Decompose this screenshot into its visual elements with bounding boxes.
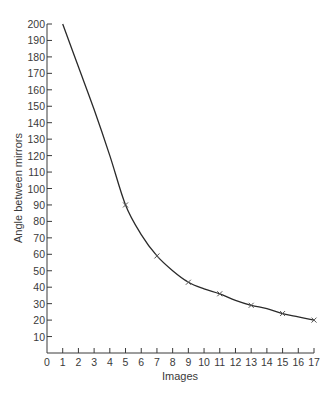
- y-tick-label: 90: [33, 199, 45, 211]
- y-tick-label: 10: [33, 331, 45, 343]
- x-tick-label: 8: [170, 356, 176, 368]
- x-tick-label: 6: [138, 356, 144, 368]
- x-tick-label: 13: [245, 356, 257, 368]
- y-tick-label: 60: [33, 248, 45, 260]
- line-chart: 1020304050607080901001101201301401501601…: [0, 0, 332, 401]
- data-curve: [63, 24, 314, 320]
- x-tick-label: 4: [107, 356, 113, 368]
- y-tick-label: 70: [33, 232, 45, 244]
- y-tick-label: 50: [33, 265, 45, 277]
- y-tick-label: 130: [27, 133, 45, 145]
- y-tick-label: 40: [33, 281, 45, 293]
- x-tick-label: 11: [214, 356, 225, 368]
- x-tick-label: 5: [123, 356, 129, 368]
- y-tick-label: 120: [27, 150, 45, 162]
- y-tick-label: 100: [27, 183, 45, 195]
- x-tick-label: 0: [44, 356, 50, 368]
- x-tick-label: 3: [91, 356, 97, 368]
- y-tick-label: 30: [33, 298, 45, 310]
- y-tick-label: 180: [27, 51, 45, 63]
- x-axis: 01234567891011121314151617: [44, 348, 320, 368]
- plot-area: [63, 24, 317, 323]
- x-tick-label: 16: [292, 356, 304, 368]
- y-axis-title: Angle between mirrors: [12, 132, 24, 243]
- y-tick-label: 20: [33, 314, 45, 326]
- x-marker-icon: [186, 280, 191, 285]
- y-tick-label: 200: [27, 18, 45, 30]
- x-tick-label: 15: [277, 356, 289, 368]
- y-tick-label: 150: [27, 100, 45, 112]
- y-tick-label: 160: [27, 84, 45, 96]
- y-axis: 1020304050607080901001101201301401501601…: [27, 18, 52, 353]
- y-tick-label: 80: [33, 215, 45, 227]
- x-tick-label: 14: [261, 356, 273, 368]
- x-tick-label: 10: [198, 356, 210, 368]
- x-tick-label: 7: [154, 356, 160, 368]
- y-tick-label: 110: [28, 166, 45, 178]
- x-tick-label: 17: [308, 356, 320, 368]
- x-axis-title: Images: [162, 370, 199, 382]
- x-tick-label: 9: [185, 356, 191, 368]
- y-tick-label: 190: [27, 34, 45, 46]
- y-tick-label: 140: [27, 117, 45, 129]
- x-marker-icon: [154, 253, 159, 258]
- x-tick-label: 2: [75, 356, 81, 368]
- x-tick-label: 1: [60, 356, 66, 368]
- x-tick-label: 12: [230, 356, 242, 368]
- y-tick-label: 170: [27, 67, 45, 79]
